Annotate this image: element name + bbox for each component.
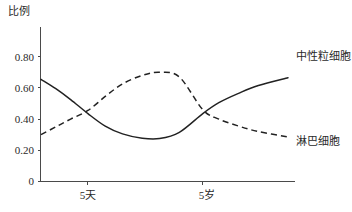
y-tick-label-040: 0.40 [2,114,34,125]
y-tick-label-020: 0.20 [2,145,34,156]
chart-plot-area [0,0,352,212]
series-line-neutrophil [41,78,288,139]
x-tick-label-5-days: 5天 [66,190,110,201]
chart-container: 比例 0.80 0.60 0.40 0.20 0 5天 5岁 中性粒细胞 淋巴细… [0,0,352,212]
series-label-lymphocyte: 淋巴细胞 [296,136,340,147]
series-label-neutrophil: 中性粒细胞 [296,51,351,62]
y-tick-label-060: 0.60 [2,83,34,94]
y-tick-label-0: 0 [2,176,34,187]
y-axis-title: 比例 [8,6,30,17]
y-tick-label-080: 0.80 [2,52,34,63]
x-tick-label-5-years: 5岁 [185,190,229,201]
series-line-lymphocyte [41,72,288,137]
